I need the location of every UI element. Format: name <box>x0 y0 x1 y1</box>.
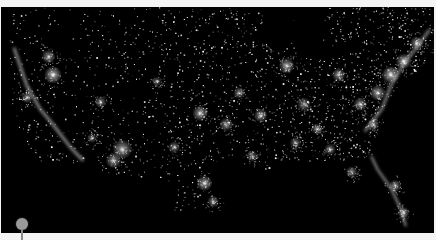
city-lights-canvas <box>1 7 434 233</box>
map-pin-stem <box>21 229 23 240</box>
image-frame <box>0 0 436 240</box>
night-lights-satellite-image <box>1 7 434 233</box>
